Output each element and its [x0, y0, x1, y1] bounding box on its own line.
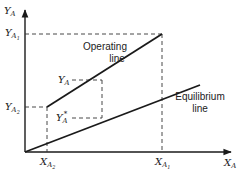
x-tick-xa2: XA2 [39, 156, 55, 170]
y-tick-ya1: YA1 [5, 27, 20, 41]
equilibrium-line [25, 85, 200, 152]
operating-line-label: Operating [83, 41, 127, 52]
operating-equilibrium-diagram: YA XA YA1 YA2 XA2 XA1 YA YA* Operating l… [0, 0, 238, 176]
x-axis-label: XA [223, 157, 236, 170]
operating-line-label-2: line [109, 53, 125, 64]
y-axis-label: YA [4, 5, 16, 18]
ya-star-point-label: YA* [56, 110, 68, 125]
equilibrium-line-label: Equilibrium [175, 91, 224, 102]
ya-point-label: YA [58, 74, 70, 87]
equilibrium-line-label-2: line [192, 103, 208, 114]
x-tick-xa1: XA1 [154, 156, 170, 170]
y-tick-ya2: YA2 [5, 101, 20, 115]
